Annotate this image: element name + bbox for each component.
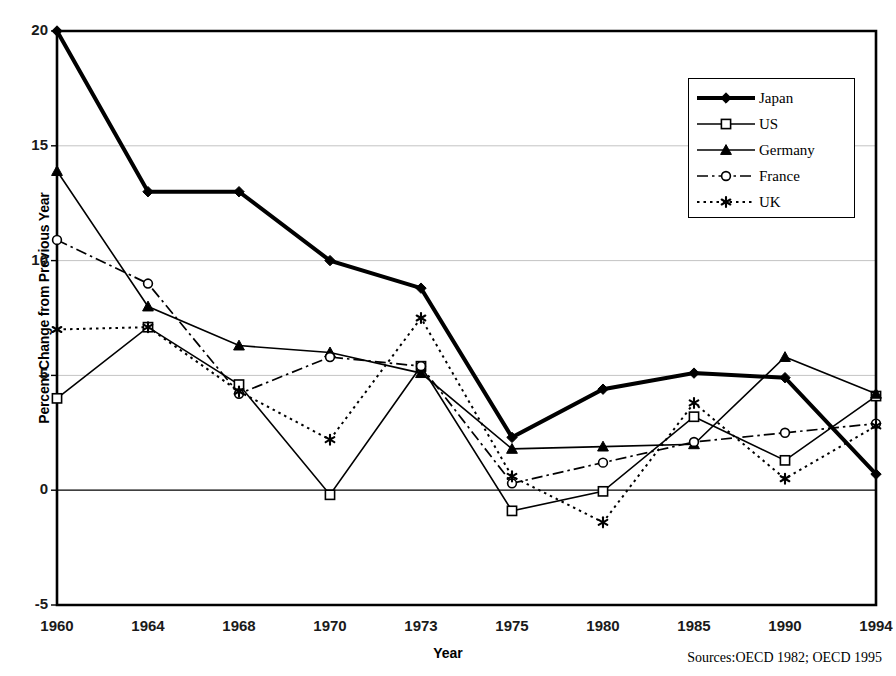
data-point-open-square bbox=[598, 487, 607, 496]
data-point-asterisk bbox=[326, 435, 335, 445]
data-point-open-circle bbox=[326, 353, 335, 362]
legend: JapanUSGermanyFranceUK bbox=[688, 78, 855, 218]
data-point-filled-triangle bbox=[780, 352, 791, 362]
legend-swatch-us bbox=[695, 114, 757, 134]
x-tick-label: 1994 bbox=[836, 617, 896, 634]
data-point-open-circle bbox=[599, 458, 608, 467]
data-point-asterisk bbox=[722, 197, 731, 207]
line-chart: Percent Change from Previous Year Year S… bbox=[0, 0, 896, 676]
x-tick-label: 1990 bbox=[745, 617, 825, 634]
data-point-open-square bbox=[780, 456, 789, 465]
legend-item-us[interactable]: US bbox=[689, 111, 854, 137]
y-tick-label: -5 bbox=[8, 595, 48, 612]
legend-item-germany[interactable]: Germany bbox=[689, 137, 854, 163]
legend-swatch-germany bbox=[695, 140, 757, 160]
series-line bbox=[57, 318, 876, 522]
series-us bbox=[52, 323, 880, 516]
data-point-open-square bbox=[325, 490, 334, 499]
data-point-open-square bbox=[52, 394, 61, 403]
x-tick-label: 1980 bbox=[563, 617, 643, 634]
x-tick-label: 1960 bbox=[17, 617, 97, 634]
data-point-open-circle bbox=[690, 438, 699, 447]
data-point-open-square bbox=[721, 119, 730, 128]
legend-label: Japan bbox=[759, 90, 793, 107]
x-tick-label: 1964 bbox=[108, 617, 188, 634]
y-tick-label: 20 bbox=[8, 21, 48, 38]
legend-item-france[interactable]: France bbox=[689, 163, 854, 189]
x-tick-label: 1985 bbox=[654, 617, 734, 634]
legend-label: UK bbox=[759, 194, 781, 211]
data-point-filled-triangle bbox=[143, 301, 154, 311]
legend-label: Germany bbox=[759, 142, 815, 159]
data-point-open-circle bbox=[417, 362, 426, 371]
data-point-open-circle bbox=[53, 236, 62, 245]
y-tick-label: 10 bbox=[8, 251, 48, 268]
y-tick-label: 5 bbox=[8, 365, 48, 382]
data-point-asterisk bbox=[781, 474, 790, 484]
legend-label: US bbox=[759, 116, 778, 133]
x-tick-label: 1970 bbox=[290, 617, 370, 634]
data-point-open-square bbox=[689, 412, 698, 421]
y-axis-label: Percent Change from Previous Year bbox=[36, 178, 52, 438]
data-point-filled-triangle bbox=[52, 166, 63, 176]
x-tick-label: 1975 bbox=[472, 617, 552, 634]
legend-swatch-japan bbox=[695, 88, 757, 108]
source-note: Sources:OECD 1982; OECD 1995 bbox=[687, 650, 882, 666]
y-tick-label: 0 bbox=[8, 480, 48, 497]
data-point-open-square bbox=[507, 506, 516, 515]
x-tick-label: 1968 bbox=[199, 617, 279, 634]
data-point-filled-diamond bbox=[721, 93, 731, 103]
y-tick-label: 15 bbox=[8, 136, 48, 153]
legend-swatch-france bbox=[695, 166, 757, 186]
data-point-asterisk bbox=[690, 398, 699, 408]
data-point-open-circle bbox=[781, 428, 790, 437]
series-line bbox=[57, 327, 876, 511]
data-point-asterisk bbox=[53, 324, 62, 334]
legend-item-uk[interactable]: UK bbox=[689, 189, 854, 215]
data-point-open-circle bbox=[722, 172, 731, 181]
data-point-asterisk bbox=[599, 517, 608, 527]
legend-label: France bbox=[759, 168, 800, 185]
x-tick-label: 1973 bbox=[381, 617, 461, 634]
data-point-open-circle bbox=[144, 279, 153, 288]
data-point-filled-diamond bbox=[689, 368, 699, 378]
legend-item-japan[interactable]: Japan bbox=[689, 85, 854, 111]
legend-swatch-uk bbox=[695, 192, 757, 212]
